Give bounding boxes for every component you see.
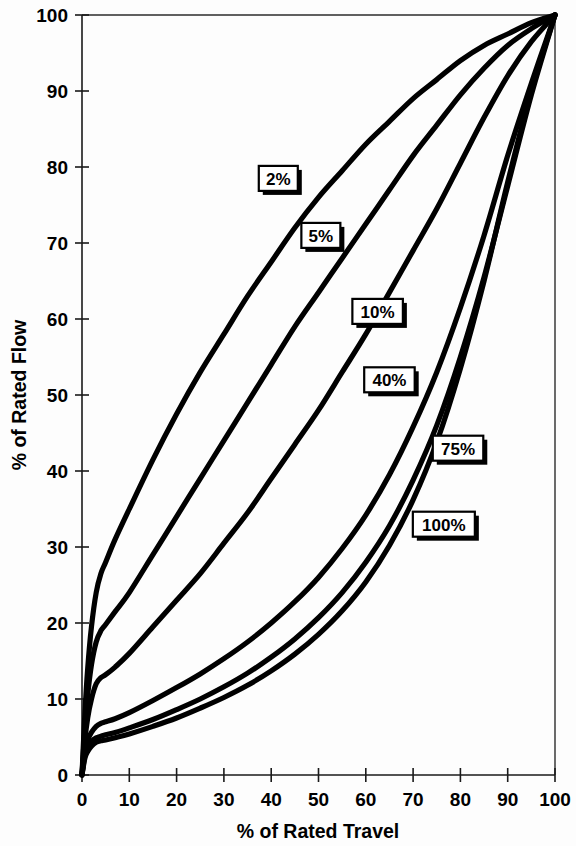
y-tick-label: 10	[47, 689, 68, 710]
x-tick-label: 70	[403, 789, 424, 810]
x-tick-label: 50	[308, 789, 329, 810]
x-tick-label: 100	[539, 789, 571, 810]
x-tick-label: 10	[119, 789, 140, 810]
y-tick-label: 0	[57, 765, 68, 786]
axes	[82, 15, 555, 775]
x-tick-label: 30	[213, 789, 234, 810]
y-tick-label: 90	[47, 81, 68, 102]
curve-callout: 2%	[259, 166, 302, 195]
callout-label: 10%	[361, 303, 395, 322]
y-tick-label: 80	[47, 157, 68, 178]
curve-2pct	[82, 15, 555, 775]
curve-callout: 10%	[352, 299, 407, 328]
curve-callout: 40%	[364, 367, 419, 396]
callout-label: 5%	[309, 227, 334, 246]
x-axis-title: % of Rated Travel	[237, 820, 400, 842]
curve-75pct	[82, 15, 555, 775]
y-tick-label: 20	[47, 613, 68, 634]
y-tick-label: 40	[47, 461, 68, 482]
y-tick-label: 30	[47, 537, 68, 558]
curve-callout: 100%	[413, 512, 479, 541]
y-axis-ticks: 0102030405060708090100	[36, 5, 89, 786]
x-tick-label: 90	[497, 789, 518, 810]
curve-callout-group: 2%5%10%40%75%100%	[259, 166, 487, 541]
callout-label: 100%	[422, 516, 465, 535]
curve-callout: 75%	[433, 436, 488, 465]
y-tick-label: 100	[36, 5, 68, 26]
x-tick-label: 60	[355, 789, 376, 810]
curve-40pct	[82, 15, 555, 775]
plot-frame	[82, 15, 555, 775]
x-tick-label: 20	[166, 789, 187, 810]
y-axis-title: % of Rated Flow	[8, 319, 30, 470]
curve-5pct	[82, 15, 555, 775]
x-tick-label: 0	[77, 789, 88, 810]
curve-callout: 5%	[301, 223, 344, 252]
callout-label: 2%	[266, 170, 291, 189]
y-tick-label: 50	[47, 385, 68, 406]
curve-10pct	[82, 15, 555, 775]
flow-characteristic-chart: 0102030405060708090100 01020304050607080…	[0, 0, 576, 846]
curve-100pct	[82, 15, 555, 775]
x-tick-label: 80	[450, 789, 471, 810]
y-tick-label: 70	[47, 233, 68, 254]
chart-svg: 0102030405060708090100 01020304050607080…	[0, 0, 576, 846]
curve-group	[82, 15, 555, 775]
y-tick-label: 60	[47, 309, 68, 330]
callout-label: 40%	[372, 371, 406, 390]
callout-label: 75%	[441, 440, 475, 459]
x-tick-label: 40	[261, 789, 282, 810]
